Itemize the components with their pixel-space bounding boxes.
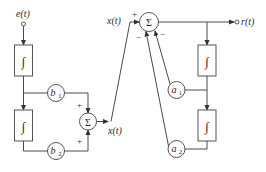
svg-text:Σ: Σ: [85, 117, 91, 128]
gain-b1: b 1: [48, 85, 65, 102]
summing-junction-left: Σ: [80, 113, 97, 130]
output-terminal: [235, 20, 239, 24]
svg-text:a: a: [172, 84, 177, 95]
sign-right-sum-bottom-left: −: [136, 32, 141, 42]
input-terminal: [22, 22, 26, 26]
sign-left-sum-bottom: +: [77, 136, 82, 146]
integrator-block-left-1: ∫: [15, 45, 33, 76]
gain-b2: b 2: [48, 143, 65, 160]
block-diagram: e(t) ∫ b 1 + ∫ b 2 + Σ x(t) x(: [0, 0, 266, 172]
signal-label-x-bottom: x(t): [107, 125, 123, 137]
svg-text:b: b: [51, 145, 56, 156]
svg-text:2: 2: [58, 150, 62, 158]
sign-right-sum-bottom-right: −: [160, 29, 165, 39]
integrator-block-left-2: ∫: [15, 110, 33, 141]
output-signal-label: r(t): [241, 16, 255, 28]
svg-text:1: 1: [58, 92, 62, 100]
svg-text:Σ: Σ: [146, 17, 152, 28]
signal-label-x-top: x(t): [106, 15, 122, 27]
gain-a1: a 1: [168, 82, 185, 99]
integrator-block-right-2: ∫: [198, 110, 216, 141]
svg-text:1: 1: [179, 89, 183, 97]
sign-right-sum-left: +: [132, 9, 137, 19]
svg-text:b: b: [51, 87, 56, 98]
integrator-block-right-1: ∫: [198, 45, 216, 76]
svg-text:a: a: [172, 143, 177, 154]
svg-text:2: 2: [179, 148, 183, 156]
gain-a2: a 2: [168, 141, 185, 158]
sign-left-sum-top: +: [77, 100, 82, 110]
summing-junction-right: Σ: [140, 13, 159, 32]
input-signal-label: e(t): [16, 8, 31, 20]
